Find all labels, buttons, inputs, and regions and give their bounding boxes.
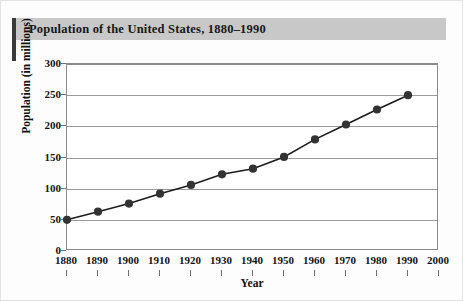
series-line [67,95,408,220]
data-point-marker [280,153,288,161]
x-tick-mark [221,270,222,276]
y-tick-mark [61,250,66,251]
y-tick-label: 50 [27,214,61,225]
x-tick-mark [314,270,315,276]
x-tick-mark [376,270,377,276]
x-tick-label: 2000 [416,254,460,267]
x-axis-title: Year [66,277,438,289]
x-tick-mark [283,270,284,276]
data-point-marker [218,170,226,178]
data-point-marker [342,120,350,128]
x-axis-tick-labels: 1880189019001910192019301940195019601970… [66,254,438,270]
chart-title: Population of the United States, 1880–19… [29,19,266,41]
x-tick-mark [128,270,129,276]
title-accent-bar [12,18,16,61]
y-axis-tick-labels: 050100150200250300 [27,63,61,250]
data-point-marker [187,181,195,189]
data-point-marker [404,91,412,99]
y-tick-label: 300 [27,58,61,69]
data-point-marker [373,105,381,113]
data-point-marker [94,208,102,216]
chart-page: Population of the United States, 1880–19… [0,0,463,301]
y-tick-label: 150 [27,152,61,163]
x-tick-mark [407,270,408,276]
x-tick-mark [66,270,67,276]
x-tick-mark [159,270,160,276]
series-markers [63,91,412,224]
x-tick-mark [438,270,439,276]
data-point-marker [156,190,164,198]
plot-area [66,63,438,250]
population-line-series [67,64,439,251]
x-tick-mark [252,270,253,276]
x-tick-mark [97,270,98,276]
data-point-marker [311,135,319,143]
data-point-marker [63,216,71,224]
x-tick-mark [190,270,191,276]
y-tick-label: 100 [27,183,61,194]
data-point-marker [249,165,257,173]
data-point-marker [125,200,133,208]
y-tick-label: 200 [27,120,61,131]
y-tick-label: 250 [27,89,61,100]
x-tick-mark [345,270,346,276]
